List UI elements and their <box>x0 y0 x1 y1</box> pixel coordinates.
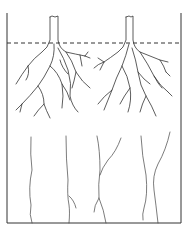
right-plant-roots <box>94 16 172 116</box>
long-roots <box>30 132 170 223</box>
container-walls <box>7 13 181 223</box>
container <box>7 13 181 223</box>
left-plant-roots <box>16 16 90 118</box>
root-container-diagram <box>0 0 190 234</box>
